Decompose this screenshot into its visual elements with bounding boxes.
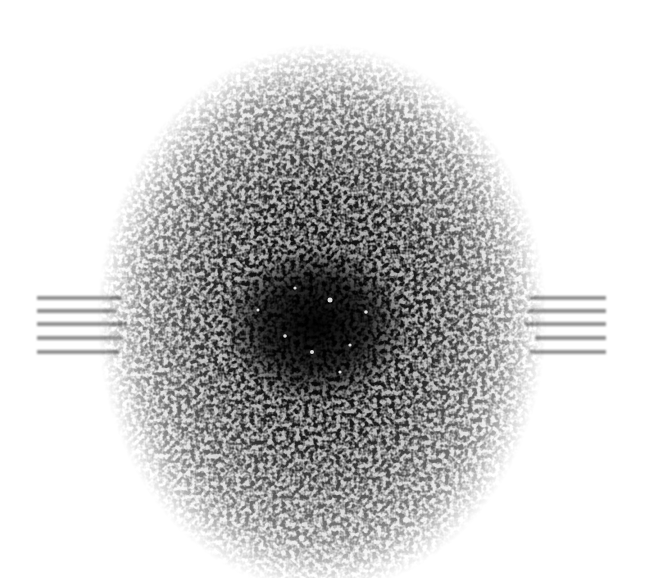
dark-core bbox=[220, 245, 410, 405]
speckle-pattern-graphic bbox=[0, 0, 647, 578]
speckle-image bbox=[0, 0, 647, 578]
